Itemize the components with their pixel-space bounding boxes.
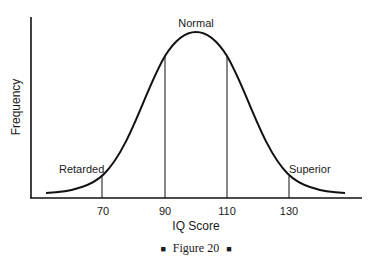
figure-caption: ■ Figure 20 ■ [160, 241, 231, 255]
x-tick-70: 70 [97, 205, 109, 217]
x-tick-130: 130 [280, 205, 298, 217]
x-tick-90: 90 [159, 205, 171, 217]
right-tail-label: Superior [289, 163, 331, 175]
caption-text: Figure 20 [173, 241, 219, 255]
y-axis-label: Frequency [9, 79, 23, 136]
left-tail-label: Retarded [59, 163, 104, 175]
caption-marker-left: ■ [160, 244, 165, 254]
iq-distribution-chart: Frequency Normal Retarded Superior 70 90… [0, 0, 378, 266]
x-axis-label: IQ Score [172, 219, 220, 233]
caption-marker-right: ■ [226, 244, 231, 254]
x-tick-110: 110 [218, 205, 236, 217]
peak-label: Normal [178, 17, 213, 29]
